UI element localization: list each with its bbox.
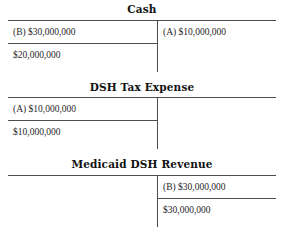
credit-entry: (A) $10,000,000 [163, 28, 226, 38]
t-account-subtotal-rule [157, 198, 276, 199]
t-account-top-rule [8, 20, 276, 21]
credit-subtotal: $30,000,000 [163, 206, 211, 216]
t-account-subtotal-rule [8, 120, 157, 121]
ledger-sheet: Cash (B) $30,000,000 (A) $10,000,000 $20… [0, 0, 284, 250]
t-account-top-rule [8, 97, 276, 98]
t-account-vertical-divider [157, 97, 158, 149]
t-account-vertical-divider [157, 20, 158, 72]
t-account-top-rule [8, 175, 276, 176]
t-account-title: Cash [0, 4, 284, 20]
t-account-vertical-divider [157, 175, 158, 227]
t-account-body: (B) $30,000,000 (A) $10,000,000 $20,000,… [8, 20, 276, 72]
t-account-title: DSH Tax Expense [0, 82, 284, 98]
t-account-cash: Cash (B) $30,000,000 (A) $10,000,000 $20… [0, 0, 284, 72]
debit-entry: (A) $10,000,000 [13, 105, 76, 115]
t-account-body: (A) $10,000,000 $10,000,000 [8, 97, 276, 149]
t-account-title: Medicaid DSH Revenue [0, 159, 284, 175]
t-account-medicaid-dsh-revenue: Medicaid DSH Revenue (B) $30,000,000 $30… [0, 149, 284, 227]
credit-entry: (B) $30,000,000 [163, 183, 226, 193]
debit-subtotal: $20,000,000 [13, 51, 61, 61]
debit-subtotal: $10,000,000 [13, 128, 61, 138]
t-account-body: (B) $30,000,000 $30,000,000 [8, 175, 276, 227]
t-account-subtotal-rule [8, 43, 157, 44]
t-account-dsh-tax-expense: DSH Tax Expense (A) $10,000,000 $10,000,… [0, 72, 284, 150]
debit-entry: (B) $30,000,000 [13, 28, 76, 38]
